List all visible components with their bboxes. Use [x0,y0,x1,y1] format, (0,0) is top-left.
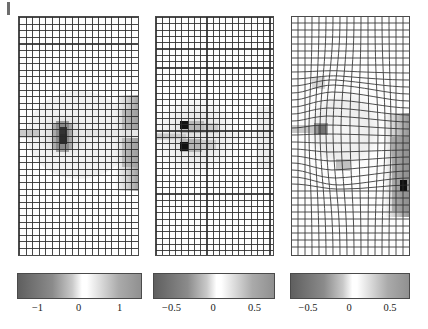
colorbar-1-tick-0: −1 [17,302,58,313]
colorbar-3 [290,273,410,299]
colorbar-3-ticks: −0.5 0 0.5 [288,302,410,313]
panel-uniform-fine-mesh [155,16,274,256]
colorbar-3-tick-0: −0.5 [288,302,328,313]
colorbar-2-tick-0: −0.5 [151,302,192,313]
mesh-grid-3 [292,17,409,255]
colorbar-1 [17,273,142,299]
page-edge-mark [7,2,10,15]
colorbar-2-ticks: −0.5 0 0.5 [151,302,275,313]
panel-3-field [292,17,409,255]
colorbar-2 [153,273,275,299]
colorbar-2-tick-1: 0 [193,302,234,313]
colorbar-2-tick-2: 0.5 [234,302,275,313]
colorbar-1-tick-2: 1 [99,302,140,313]
panel-adapted-deformed-mesh [291,16,410,256]
colorbar-3-tick-2: 0.5 [370,302,410,313]
mesh-grid-2 [156,17,273,255]
colorbar-1-tick-1: 0 [58,302,99,313]
mesh-grid-1 [19,17,138,255]
panel-uniform-coarse-mesh [18,16,139,256]
colorbar-1-ticks: −1 0 1 [17,302,140,313]
colorbar-3-tick-1: 0 [329,302,369,313]
figure-root: −1 0 1 −0.5 0 0.5 −0.5 0 0.5 [0,0,428,329]
